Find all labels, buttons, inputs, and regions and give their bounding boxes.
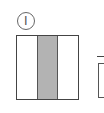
partial-figure-top-line [97,56,104,57]
divided-square [16,35,79,100]
partial-figure-rect [98,63,104,98]
figure-label-text: Ⅰ [24,15,28,27]
shaded-strip [37,36,58,99]
figure-label: Ⅰ [17,12,35,30]
